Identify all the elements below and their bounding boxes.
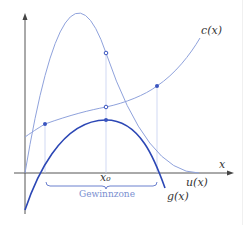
right-edge-divider [242,0,243,225]
u-max-point [104,51,108,55]
label-profit-zone: Gewinnzone [79,189,135,199]
label-g: g(x) [167,190,189,203]
label-u: u(x) [186,176,208,189]
label-x0: x₀ [100,171,111,184]
y-axis-arrow-icon [23,13,28,20]
cost-curve-c [25,38,200,137]
revenue-curve-u [25,13,199,173]
x-axis-arrow-icon [227,171,234,176]
g-max-point [104,118,108,122]
label-x-axis: x [219,158,225,171]
intersection-right-point [155,84,159,88]
label-c: c(x) [201,24,222,37]
c-at-x0-point [104,105,108,109]
intersection-left-point [43,122,47,126]
